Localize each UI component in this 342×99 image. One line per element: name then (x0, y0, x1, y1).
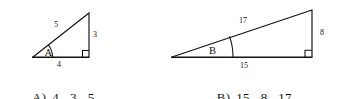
answer-a-value-1: 4 (52, 90, 59, 99)
triangle-a-outline (33, 13, 89, 57)
answer-b-value-2: 8 (261, 90, 268, 99)
triangle-a-horizontal-leg-label: 4 (57, 60, 61, 69)
triangle-b-group: B 17 8 15 (171, 10, 324, 70)
triangle-b-angle-arc (230, 36, 234, 57)
triangle-b-angle-label: B (209, 45, 216, 56)
triangle-a-vertical-leg-label: 3 (93, 30, 97, 39)
answer-a-value-2: 3 (70, 90, 77, 99)
answer-b-value-1: 15 (236, 90, 249, 99)
answer-a-letter: A) (32, 90, 46, 99)
answer-b-value-3: 17 (278, 90, 291, 99)
triangle-a-right-angle-marker (83, 51, 90, 58)
answer-choice-a[interactable]: A)435 (19, 74, 94, 99)
answer-b-letter: B) (217, 90, 230, 99)
triangle-b-horizontal-leg-label: 15 (240, 61, 248, 70)
triangle-a-group: A 5 3 4 (32, 13, 97, 69)
triangle-a-angle-label: A (45, 47, 53, 58)
answer-choice-b[interactable]: B)15817 (203, 74, 292, 99)
triangle-b-hypotenuse-label: 17 (239, 16, 247, 25)
triangle-a-hypotenuse-label: 5 (54, 20, 58, 29)
triangle-b-vertical-leg-label: 8 (320, 28, 324, 37)
answer-a-value-3: 5 (88, 90, 95, 99)
geometry-figure: A 5 3 4 B 17 8 15 A)435 B)15817 (0, 0, 342, 99)
triangle-b-right-angle-marker (305, 50, 312, 57)
